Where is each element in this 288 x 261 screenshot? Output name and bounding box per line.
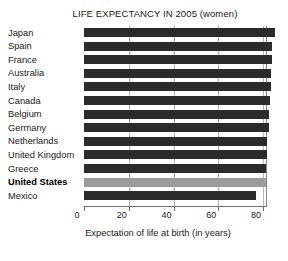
bar — [84, 55, 272, 64]
tick-mark — [263, 206, 264, 211]
tick-mark — [218, 206, 219, 211]
category-label: United Kingdom — [0, 150, 76, 160]
bar — [84, 164, 266, 173]
plot-wrapper: JapanSpainFranceAustraliaItalyCanadaBelg… — [0, 26, 288, 206]
category-label: Germany — [0, 123, 76, 133]
category-label: Belgium — [0, 109, 76, 119]
category-label: Greece — [0, 164, 76, 174]
x-axis-title: Expectation of life at birth (in years) — [0, 228, 288, 238]
bar — [84, 150, 267, 159]
tick-label: 40 — [161, 210, 171, 220]
tick-label: 0 — [74, 210, 79, 220]
chart-title: LIFE EXPECTANCY IN 2005 (women) — [0, 8, 288, 19]
tick-mark — [84, 206, 85, 211]
category-label: Japan — [0, 28, 76, 38]
category-label: Netherlands — [0, 136, 76, 146]
bar-chart: LIFE EXPECTANCY IN 2005 (women) JapanSpa… — [0, 0, 288, 261]
bar — [84, 110, 269, 119]
category-label: Australia — [0, 68, 76, 78]
bar — [84, 137, 267, 146]
bar — [84, 69, 271, 78]
bar — [84, 42, 272, 51]
category-axis-labels: JapanSpainFranceAustraliaItalyCanadaBelg… — [0, 26, 80, 206]
bar — [84, 178, 266, 187]
bar — [84, 28, 275, 37]
bar — [84, 191, 256, 200]
bar — [84, 82, 271, 91]
category-label: Spain — [0, 41, 76, 51]
x-axis-line — [84, 206, 267, 207]
bar — [84, 123, 269, 132]
tick-mark — [174, 206, 175, 211]
category-label: France — [0, 55, 76, 65]
bar — [84, 96, 270, 105]
plot-area — [84, 26, 267, 206]
category-label: Mexico — [0, 191, 76, 201]
category-label: Italy — [0, 82, 76, 92]
tick-label: 80 — [251, 210, 261, 220]
tick-label: 60 — [206, 210, 216, 220]
category-label: Canada — [0, 96, 76, 106]
tick-mark — [129, 206, 130, 211]
category-label: United States — [0, 177, 76, 187]
tick-label: 20 — [117, 210, 127, 220]
